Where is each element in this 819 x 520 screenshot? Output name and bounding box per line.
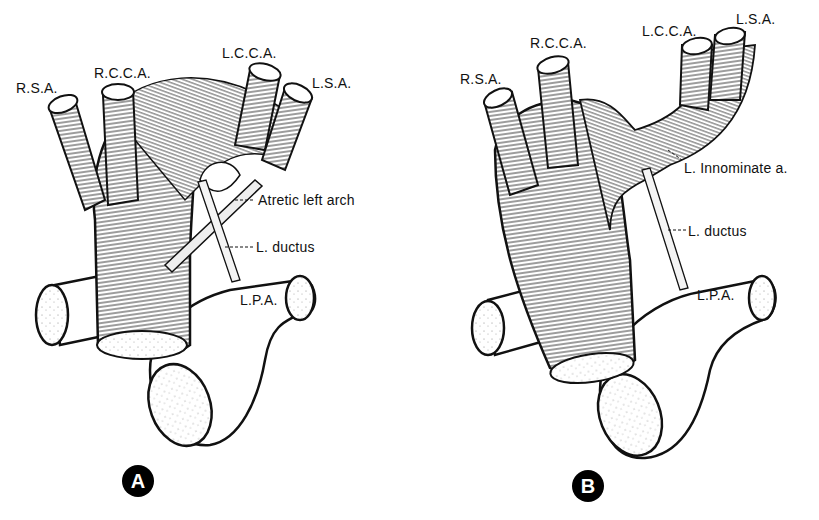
panel-badge-a: A [122,465,154,497]
rcca-opening [102,84,134,100]
label-lcca: L.C.C.A. [222,46,277,60]
label-rsa: R.S.A. [16,81,58,95]
label-lsa: L.S.A. [312,76,351,90]
label-rcca: R.C.C.A. [530,36,587,50]
right-subclavian-artery [50,100,105,210]
left-pulmonary-opening [286,276,314,320]
label-lpa: L.P.A. [240,293,278,307]
right-pulmonary-opening [36,285,68,345]
label-l-ductus: L. ductus [688,224,747,238]
left-ductus [642,168,688,290]
label-l-innominate-artery: L. Innominate a. [684,161,788,175]
right-common-carotid-artery [103,90,138,205]
label-atretic-left-arch: Atretic left arch [258,193,355,207]
panel-b: R.S.A. R.C.C.A. L.C.C.A. L.S.A. L. Innom… [410,0,819,520]
panel-a: R.S.A. R.C.C.A. L.C.C.A. L.S.A. Atretic … [0,0,410,520]
right-pulmonary-opening [472,301,504,355]
label-lpa: L.P.A. [697,288,735,302]
label-lsa: L.S.A. [736,12,775,26]
label-rsa: R.S.A. [460,72,502,86]
label-rcca: R.C.C.A. [94,66,151,80]
left-pulmonary-opening [749,276,775,320]
label-lcca: L.C.C.A. [642,24,697,38]
aortic-opening [97,331,187,359]
label-l-ductus: L. ductus [256,240,315,254]
panel-badge-b: B [572,470,604,502]
